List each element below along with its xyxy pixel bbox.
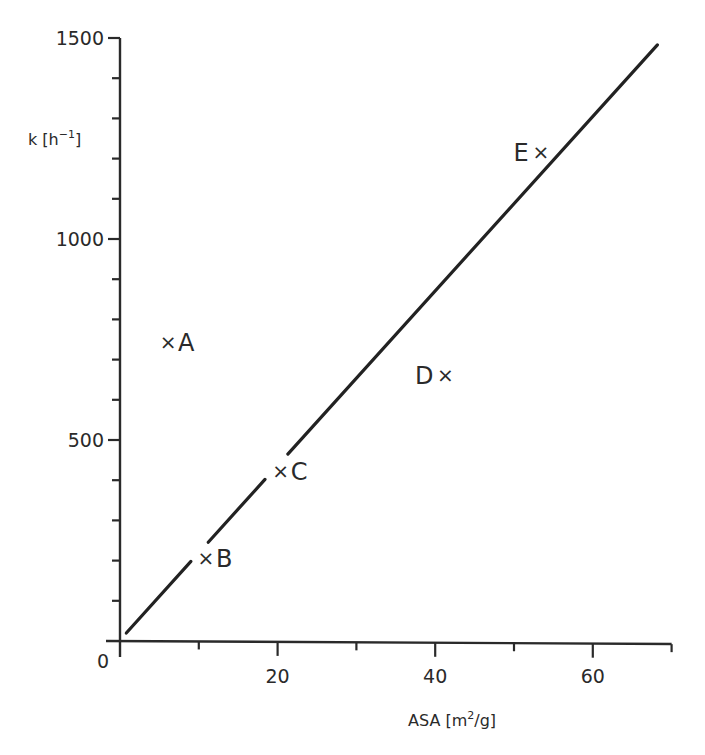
x-tick-label: 60 xyxy=(581,665,605,687)
point-label: C xyxy=(291,458,308,486)
fit-line-segment xyxy=(208,479,265,542)
data-points: ×A×B×C×D×E xyxy=(160,139,549,573)
data-point-b: ×B xyxy=(198,545,233,573)
figure-caption xyxy=(20,742,700,755)
data-point-e: ×E xyxy=(514,139,550,167)
cross-marker-icon: × xyxy=(437,363,454,387)
x-tick-label: 20 xyxy=(266,665,290,687)
data-point-d: ×D xyxy=(415,362,454,390)
fit-line xyxy=(126,45,657,633)
tick-labels: 50010001500204060 xyxy=(56,27,605,687)
cross-marker-icon: × xyxy=(198,546,215,570)
y-tick-label: 500 xyxy=(68,429,104,451)
x-axis-title: ASA [m2/g] xyxy=(408,709,496,730)
y-axis-title: k [h−1] xyxy=(28,128,81,149)
data-point-a: ×A xyxy=(160,329,195,357)
fit-line-segment xyxy=(288,45,658,454)
point-label: A xyxy=(178,329,195,357)
origin-label: 0 xyxy=(97,650,109,672)
y-tick-label: 1000 xyxy=(56,228,104,250)
y-tick-label: 1500 xyxy=(56,27,104,49)
scatter-chart: 50010001500204060 ×A×B×C×D×E k [h−1] ASA… xyxy=(0,0,705,755)
point-label: D xyxy=(415,362,433,390)
point-label: B xyxy=(216,545,232,573)
data-point-c: ×C xyxy=(272,458,307,486)
cross-marker-icon: × xyxy=(160,330,177,354)
cross-marker-icon: × xyxy=(272,459,289,483)
point-label: E xyxy=(514,139,529,167)
fit-line-segment xyxy=(126,561,191,633)
x-axis-line xyxy=(106,641,672,644)
cross-marker-icon: × xyxy=(532,140,549,164)
x-tick-label: 40 xyxy=(423,665,447,687)
